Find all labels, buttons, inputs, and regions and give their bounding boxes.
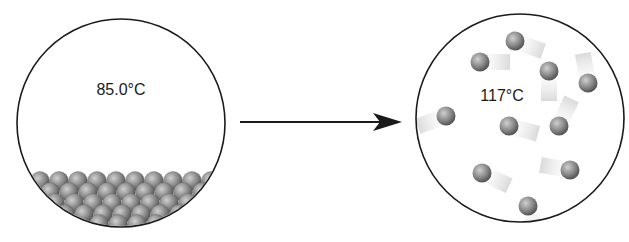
- gas-particle: [500, 117, 519, 136]
- gas-particle: [437, 107, 456, 126]
- phase-change-diagram: [0, 0, 629, 242]
- liquid-particles: [31, 172, 221, 234]
- liquid-temperature-label: 85.0°C: [96, 81, 145, 99]
- transition-arrow: [240, 113, 402, 131]
- liquid-particle: [193, 183, 212, 202]
- gas-particle: [471, 53, 490, 72]
- gas-container: [415, 14, 624, 237]
- liquid-particle: [109, 215, 128, 234]
- gas-particle: [561, 161, 580, 180]
- liquid-container: [17, 19, 225, 234]
- gas-particle: [579, 74, 598, 93]
- gas-temperature-label: 117°C: [480, 87, 523, 105]
- gas-particle: [519, 197, 538, 216]
- gas-particle: [550, 117, 569, 136]
- gas-motion-trails: [415, 33, 596, 236]
- liquid-particle: [147, 215, 166, 234]
- gas-particles: [437, 32, 598, 216]
- gas-particle: [540, 62, 559, 81]
- gas-particle: [473, 164, 492, 183]
- gas-particle: [506, 32, 525, 51]
